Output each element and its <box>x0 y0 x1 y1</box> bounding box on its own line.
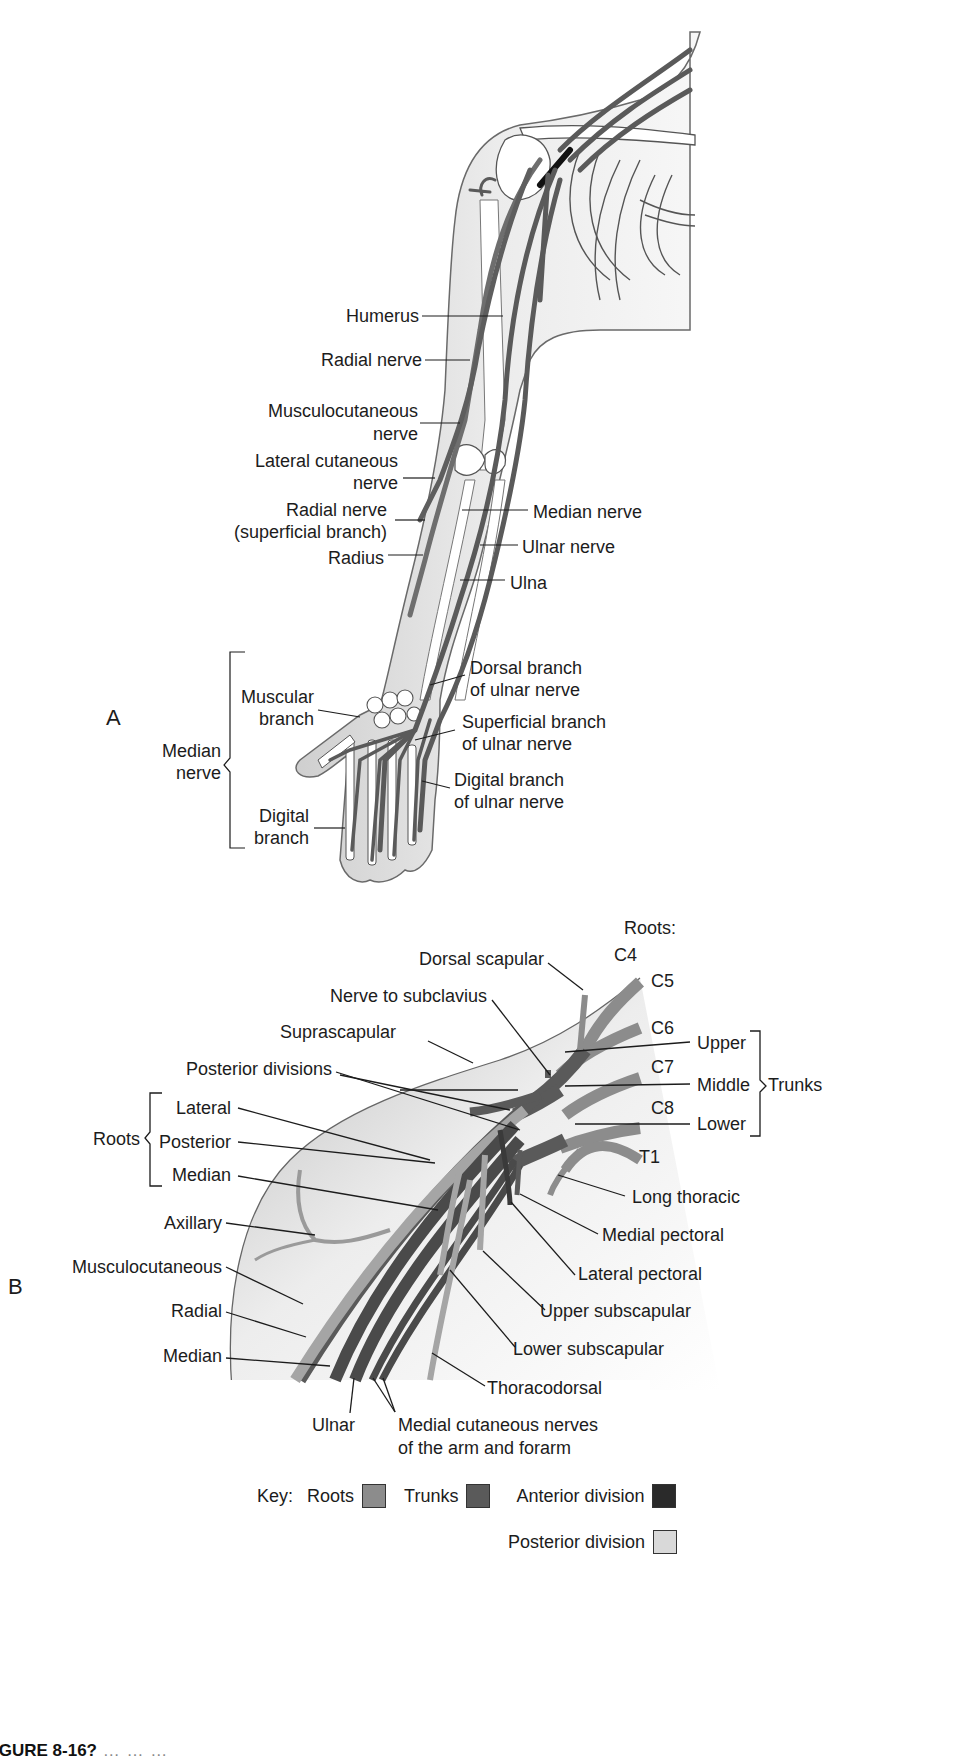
legend-swatch-posterior-division <box>653 1530 677 1554</box>
figure-caption: IGURE 8-16? … … … <box>0 1741 168 1759</box>
legend-label-trunks: Trunks <box>404 1486 458 1507</box>
label-dorsal-branch-2: of ulnar nerve <box>470 679 580 701</box>
label-median-root: Median <box>172 1164 231 1186</box>
label-lateral-pectoral: Lateral pectoral <box>578 1263 702 1285</box>
figure-caption-rest: … … … <box>97 1741 168 1759</box>
label-suprascapular: Suprascapular <box>280 1021 396 1043</box>
label-long-thoracic: Long thoracic <box>632 1186 740 1208</box>
label-ulnar: Ulnar <box>312 1414 355 1436</box>
label-median-nerve: Median nerve <box>533 501 642 523</box>
legend-key-row-2: Posterior division <box>508 1530 677 1554</box>
label-digital-ulnar-1: Digital branch <box>454 769 564 791</box>
label-c7: C7 <box>651 1056 674 1078</box>
panel-a-letter: A <box>106 705 121 731</box>
label-c5: C5 <box>651 970 674 992</box>
label-lower-trunk: Lower <box>697 1113 746 1135</box>
label-radial-superficial-2: (superficial branch) <box>234 521 387 543</box>
label-c4: C4 <box>614 944 637 966</box>
legend-key: Key: Roots Trunks Anterior division <box>257 1484 676 1508</box>
label-dorsal-branch-1: Dorsal branch <box>470 657 582 679</box>
label-nerve-to-subclavius: Nerve to subclavius <box>330 985 487 1007</box>
label-median: Median <box>163 1345 222 1367</box>
label-radial-nerve: Radial nerve <box>321 349 422 371</box>
label-thoracodorsal: Thoracodorsal <box>487 1377 602 1399</box>
label-lateral-cutaneous-2: nerve <box>353 472 398 494</box>
label-superficial-branch-2: of ulnar nerve <box>462 733 572 755</box>
label-humerus: Humerus <box>346 305 419 327</box>
label-lateral-cutaneous-1: Lateral cutaneous <box>255 450 398 472</box>
label-dorsal-scapular: Dorsal scapular <box>419 948 544 970</box>
legend-swatch-trunks <box>466 1484 490 1508</box>
label-digital-branch-1: Digital <box>259 805 309 827</box>
label-musculocutaneous-1: Musculocutaneous <box>268 400 418 422</box>
label-trunks: Trunks <box>768 1074 822 1096</box>
brachial-plexus-figure: A Humerus Radial nerve Musculocutaneous … <box>0 0 962 1759</box>
label-digital-ulnar-2: of ulnar nerve <box>454 791 564 813</box>
label-ulna: Ulna <box>510 572 547 594</box>
label-musculocutaneous-2: nerve <box>373 423 418 445</box>
label-median-group-2: nerve <box>176 762 221 784</box>
label-lateral: Lateral <box>176 1097 231 1119</box>
legend-title: Key: <box>257 1486 293 1507</box>
label-ulnar-nerve: Ulnar nerve <box>522 536 615 558</box>
label-musculocutaneous: Musculocutaneous <box>72 1256 222 1278</box>
label-medial-cutaneous-1: Medial cutaneous nerves <box>398 1414 598 1436</box>
label-axillary: Axillary <box>164 1212 222 1234</box>
label-c6: C6 <box>651 1017 674 1039</box>
label-middle-trunk: Middle <box>697 1074 750 1096</box>
label-muscular-branch-2: branch <box>259 708 314 730</box>
legend-swatch-anterior-division <box>652 1484 676 1508</box>
label-muscular-branch-1: Muscular <box>241 686 314 708</box>
label-median-group-1: Median <box>162 740 221 762</box>
label-c8: C8 <box>651 1097 674 1119</box>
label-medial-cutaneous-2: of the arm and forarm <box>398 1437 571 1459</box>
label-superficial-branch-1: Superficial branch <box>462 711 606 733</box>
legend-label-anterior-division: Anterior division <box>516 1486 644 1507</box>
figure-caption-number: IGURE 8-16? <box>0 1741 97 1759</box>
label-lower-subscapular: Lower subscapular <box>513 1338 664 1360</box>
label-radial: Radial <box>171 1300 222 1322</box>
legend-swatch-roots <box>362 1484 386 1508</box>
label-roots-heading: Roots: <box>624 917 676 939</box>
label-radial-superficial-1: Radial nerve <box>286 499 387 521</box>
label-posterior: Posterior <box>159 1131 231 1153</box>
label-radius: Radius <box>328 547 384 569</box>
label-upper-subscapular: Upper subscapular <box>540 1300 691 1322</box>
legend-label-posterior-division: Posterior division <box>508 1532 645 1553</box>
label-upper-trunk: Upper <box>697 1032 746 1054</box>
legend-label-roots: Roots <box>307 1486 354 1507</box>
label-t1: T1 <box>639 1146 660 1168</box>
label-roots-group: Roots <box>93 1128 140 1150</box>
label-digital-branch-2: branch <box>254 827 309 849</box>
label-posterior-divisions: Posterior divisions <box>186 1058 332 1080</box>
label-medial-pectoral: Medial pectoral <box>602 1224 724 1246</box>
panel-b-letter: B <box>8 1274 23 1300</box>
